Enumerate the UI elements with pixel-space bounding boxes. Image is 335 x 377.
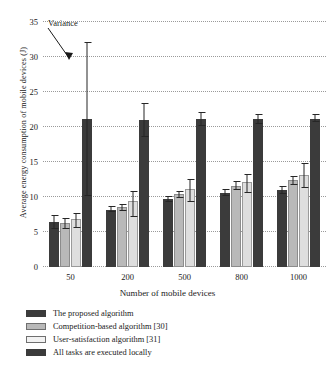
bar[interactable] xyxy=(71,219,81,267)
bar[interactable] xyxy=(196,119,206,267)
error-bar xyxy=(122,204,123,212)
bar-slot xyxy=(185,22,195,267)
bar-group xyxy=(106,22,149,267)
error-bar xyxy=(236,181,237,189)
x-axis-tick-label: 800 xyxy=(235,272,248,282)
bar[interactable] xyxy=(106,210,116,267)
legend-label: User-satisfaction algorithm [31] xyxy=(53,335,160,344)
bar[interactable] xyxy=(60,223,70,267)
y-axis-tick-label: 10 xyxy=(16,192,38,202)
legend-item[interactable]: Competition-based algorithm [30] xyxy=(26,320,306,333)
y-axis-tick-label: 20 xyxy=(16,122,38,132)
bar-group xyxy=(277,22,320,267)
error-bar xyxy=(201,112,202,126)
legend-item[interactable]: All tasks are executed locally xyxy=(26,346,306,359)
bar-groups xyxy=(43,22,326,267)
bar-slot xyxy=(174,22,184,267)
bar-slot xyxy=(253,22,263,267)
error-bar xyxy=(133,191,134,217)
bar[interactable] xyxy=(82,119,92,267)
legend-item[interactable]: User-satisfaction algorithm [31] xyxy=(26,333,306,346)
x-axis-tick-label: 50 xyxy=(66,272,75,282)
y-axis-tick-labels: 05101520253035 xyxy=(16,0,38,300)
x-axis-tick-label: 500 xyxy=(178,272,191,282)
legend-swatch xyxy=(26,349,46,356)
bar[interactable] xyxy=(163,199,173,267)
bar-group xyxy=(163,22,206,267)
error-bar xyxy=(65,218,66,229)
bar-slot xyxy=(277,22,287,267)
legend-swatch xyxy=(26,323,46,330)
error-bar xyxy=(225,189,226,197)
bar[interactable] xyxy=(117,207,127,267)
y-axis-tick-label: 25 xyxy=(16,87,38,97)
bar[interactable] xyxy=(288,180,298,267)
bar-slot xyxy=(139,22,149,267)
y-axis-tick-label: 0 xyxy=(16,262,38,272)
bar[interactable] xyxy=(49,222,59,267)
error-bar xyxy=(258,114,259,123)
bar[interactable] xyxy=(139,120,149,267)
chart-legend: The proposed algorithmCompetition-based … xyxy=(26,307,306,359)
bar[interactable] xyxy=(128,201,138,267)
y-axis-tick-label: 30 xyxy=(16,52,38,62)
bar-group xyxy=(220,22,263,267)
legend-item[interactable]: The proposed algorithm xyxy=(26,307,306,320)
error-bar xyxy=(87,42,88,196)
x-axis-tick-label: 200 xyxy=(121,272,134,282)
bar[interactable] xyxy=(185,189,195,267)
error-bar xyxy=(111,206,112,212)
bar-slot xyxy=(128,22,138,267)
figure-container: Average energy consumption of mobile dev… xyxy=(0,0,335,377)
y-axis-tick-label: 5 xyxy=(16,227,38,237)
error-bar xyxy=(247,174,248,193)
error-bar xyxy=(76,213,77,228)
legend-swatch xyxy=(26,336,46,343)
bar[interactable] xyxy=(174,194,184,268)
bar-slot xyxy=(106,22,116,267)
variance-annotation-arrow-icon xyxy=(44,26,84,68)
y-axis-tick-label: 15 xyxy=(16,157,38,167)
bar[interactable] xyxy=(242,182,252,267)
error-bar xyxy=(282,186,283,194)
bar-slot xyxy=(117,22,127,267)
legend-label: Competition-based algorithm [30] xyxy=(53,322,167,331)
bar-slot xyxy=(220,22,230,267)
bar-slot xyxy=(310,22,320,267)
error-bar xyxy=(168,196,169,202)
bar-slot xyxy=(163,22,173,267)
legend-label: All tasks are executed locally xyxy=(53,348,152,357)
bar-slot xyxy=(196,22,206,267)
x-axis-tick-label: 1000 xyxy=(290,272,307,282)
error-bar xyxy=(293,176,294,186)
bar-slot xyxy=(288,22,298,267)
x-axis-title: Number of mobile devices xyxy=(0,288,335,298)
legend-label: The proposed algorithm xyxy=(53,309,133,318)
bar[interactable] xyxy=(231,186,241,267)
y-axis-tick-label: 35 xyxy=(16,17,38,27)
bar[interactable] xyxy=(253,119,263,267)
error-bar xyxy=(179,191,180,198)
error-bar xyxy=(54,215,55,228)
bar-slot xyxy=(299,22,309,267)
bar[interactable] xyxy=(277,190,287,267)
bar-slot xyxy=(231,22,241,267)
bar[interactable] xyxy=(220,193,230,267)
plot-area-wrapper: Average energy consumption of mobile dev… xyxy=(0,0,335,300)
plot-canvas xyxy=(43,22,326,267)
bar[interactable] xyxy=(299,175,309,267)
error-bar xyxy=(144,103,145,137)
error-bar xyxy=(190,179,191,201)
error-bar xyxy=(315,114,316,122)
bar[interactable] xyxy=(310,119,320,267)
bar-slot xyxy=(242,22,252,267)
legend-swatch xyxy=(26,310,46,317)
error-bar xyxy=(304,163,305,188)
